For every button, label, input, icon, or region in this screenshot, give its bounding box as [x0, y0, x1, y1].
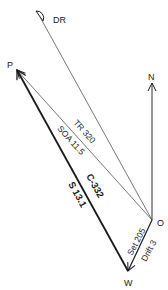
label-o: O: [157, 218, 164, 228]
label-dr: DR: [53, 15, 66, 25]
course-line: [17, 70, 128, 271]
label-p: P: [7, 60, 13, 70]
label-course: C-332: [84, 172, 106, 200]
dr-symbol-icon: [36, 11, 44, 21]
diagram-svg: DR P N O W TR 320 SOA 11.5 C-332 S 13.1 …: [0, 0, 168, 290]
label-w: W: [124, 278, 133, 288]
label-n: N: [148, 72, 155, 82]
current-vector-diagram: DR P N O W TR 320 SOA 11.5 C-332 S 13.1 …: [0, 0, 168, 290]
